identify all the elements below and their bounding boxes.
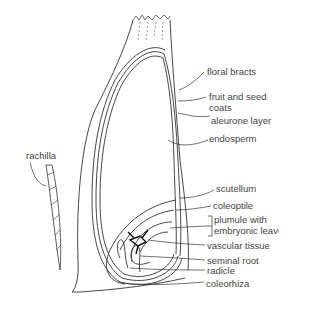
bract-tip <box>133 15 170 20</box>
label-coleorhiza: coleorhiza <box>206 278 249 289</box>
label-scutellum: scutellum <box>216 183 256 194</box>
floral-bract-outline <box>72 20 185 292</box>
label-radicle: radicle <box>207 265 235 276</box>
label-fruit-seed-coats-line2: coats <box>209 102 232 113</box>
label-floral-bracts: floral bracts <box>207 66 256 77</box>
label-endosperm: endosperm <box>209 133 257 144</box>
label-coleoptile: coleoptile <box>213 200 253 211</box>
label-fruit-seed-coats: fruit and seed <box>209 91 267 102</box>
rachilla-shape <box>46 165 61 270</box>
label-vascular-tissue: vascular tissue <box>207 240 270 251</box>
label-rachilla: rachilla <box>26 150 56 161</box>
label-plumule-line2: embryonic leaves <box>214 225 279 236</box>
coleoptile-outline <box>131 222 172 264</box>
label-aleurone-layer: aleurone layer <box>211 115 271 126</box>
label-plumule: plumule with <box>214 214 267 225</box>
